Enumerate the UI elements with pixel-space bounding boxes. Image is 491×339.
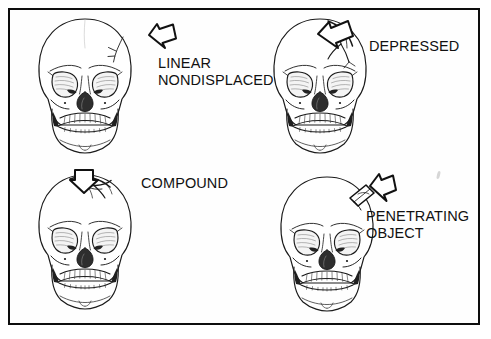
impact-arrow-down-left-icon [360,168,400,208]
panel-label-depressed: DEPRESSED [369,38,459,55]
panel-label-compound: COMPOUND [141,175,228,192]
panel-linear-nondisplaced: LINEAR NONDISPLACED [20,14,260,162]
panel-compound: COMPOUND [20,170,260,318]
impact-arrow-down-left-icon [140,18,182,58]
skull-illustration [20,14,150,154]
skull-fracture-figure: LINEAR NONDISPLACED [0,0,491,339]
impact-arrow-down-left-icon [312,14,360,50]
panel-label-penetrating-object: PENETRATING OBJECT [366,208,469,242]
panel-depressed: DEPRESSED [255,14,485,162]
impact-arrow-down-icon [67,166,101,196]
panel-penetrating-object: PENETRATING OBJECT [262,172,490,320]
